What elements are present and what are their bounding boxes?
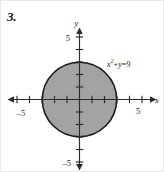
y-axis-label: y [74,18,79,28]
equation-label: x2+y=9 [107,60,131,69]
x-tick-label-positive-5: 5 [136,106,140,116]
equation-right-hand-side: 9 [126,60,130,69]
x-axis-arrow-left [8,96,15,103]
y-axis-arrow-up [76,28,83,35]
figure-container: 3. [0,0,164,172]
coordinate-plot: x y 5 –5 –5 5 [0,0,164,172]
y-axis-arrow-down [76,164,83,171]
y-tick-label-negative-5: –5 [62,158,72,168]
y-tick-label-positive-5: 5 [66,33,70,43]
x-axis-label: x [154,95,159,105]
x-tick-label-negative-5: –5 [16,108,26,118]
